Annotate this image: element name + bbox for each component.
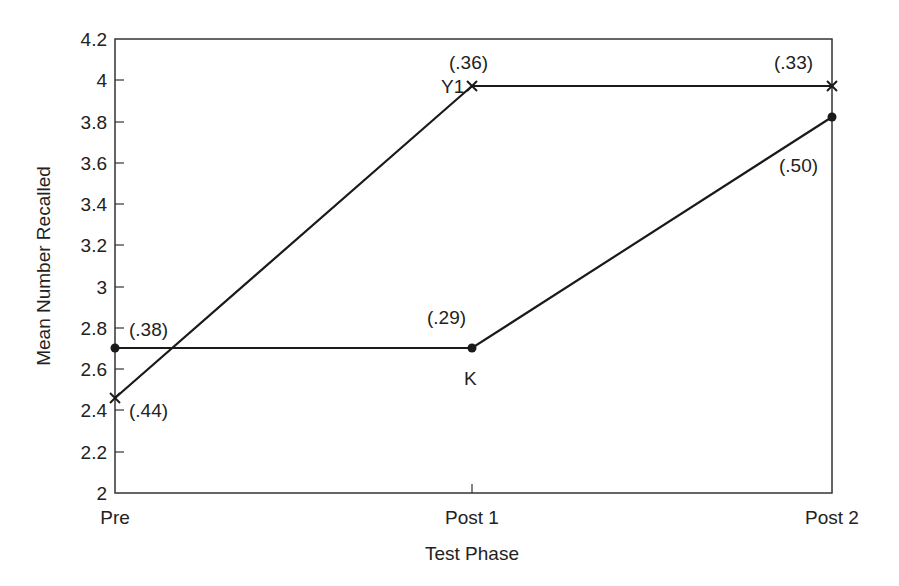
y-tick-label: 4.2 [81,29,107,50]
y-tick-label: 2.8 [81,318,107,339]
circle-marker [111,344,120,353]
annotation-y1-post2: (.33) [774,52,813,73]
x-tick-label-post2: Post 2 [805,507,859,528]
y-tick-label: 3.4 [81,194,108,215]
y-tick-label: 2.2 [81,442,107,463]
annotation-k-post1: (.29) [427,307,466,328]
x-axis-labels: Pre Post 1 Post 2 [100,507,859,528]
y-tick-label: 3 [96,277,107,298]
line-chart: 2 2.2 2.4 2.6 2.8 3 3.2 3.4 3.6 3.8 4 4.… [0,0,899,586]
x-axis-title: Test Phase [425,543,519,564]
series-k [111,113,837,353]
y-axis-labels: 2 2.2 2.4 2.6 2.8 3 3.2 3.4 3.6 3.8 4 4.… [81,29,108,504]
annotation-y1-post1: (.36) [449,52,488,73]
annotation-k-post2: (.50) [779,155,818,176]
x-tick-label-post1: Post 1 [445,507,499,528]
annotations: (.38) (.29) (.50) (.44) (.36) (.33) [129,52,818,421]
annotation-y1-pre: (.44) [129,400,168,421]
x-tick-label-pre: Pre [100,507,130,528]
y-axis-title: Mean Number Recalled [33,166,54,366]
y-tick-label: 3.8 [81,112,107,133]
series-label-y1: Y1 [441,76,464,97]
y-tick-label: 2.6 [81,359,107,380]
circle-marker [828,113,837,122]
annotation-k-pre: (.38) [129,319,168,340]
y-tick-label: 2.4 [81,400,108,421]
series-y1 [110,81,837,403]
y-tick-label: 4 [96,70,107,91]
y-tick-label: 3.2 [81,235,107,256]
circle-marker [468,344,477,353]
y-tick-label: 3.6 [81,153,107,174]
plot-frame [115,39,832,493]
series-label-k: K [464,368,477,389]
series-k-line [115,117,832,348]
y-tick-label: 2 [96,483,107,504]
